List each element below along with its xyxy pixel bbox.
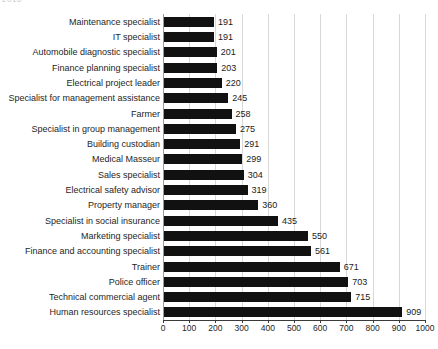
value-label: 220	[226, 77, 241, 88]
value-label: 299	[246, 154, 261, 165]
category-label: Technical commercial agent	[49, 292, 160, 303]
bar	[164, 124, 236, 134]
value-label: 435	[282, 215, 297, 226]
bar-row: IT specialist191	[0, 29, 438, 45]
category-label: Property manager	[88, 200, 160, 211]
bar-wrapper	[164, 200, 258, 210]
value-label: 550	[312, 230, 327, 241]
bar-wrapper	[164, 109, 232, 119]
category-label: Maintenance specialist	[69, 16, 160, 27]
category-label: Specialist for management assistance	[8, 93, 160, 104]
bar-row: Electrical project leader220	[0, 75, 438, 91]
bar-wrapper	[164, 277, 348, 287]
category-label: Human resources specialist	[49, 307, 160, 318]
bar-row: Maintenance specialist191	[0, 14, 438, 30]
bar-row: Finance and accounting specialist561	[0, 244, 438, 260]
value-label: 258	[236, 108, 251, 119]
bar	[164, 200, 258, 210]
bar-wrapper	[164, 185, 248, 195]
value-label: 304	[248, 169, 263, 180]
bar-wrapper	[164, 292, 351, 302]
bar	[164, 216, 278, 226]
category-label: Electrical safety advisor	[65, 185, 160, 196]
value-label: 561	[315, 246, 330, 257]
bar-row: Specialist for management assistance245	[0, 91, 438, 107]
category-label: Medical Masseur	[92, 154, 160, 165]
category-label: Police officer	[109, 276, 160, 287]
value-label: 245	[232, 93, 247, 104]
bar-wrapper	[164, 139, 240, 149]
category-label: IT specialist	[113, 32, 160, 43]
x-tick-label-900: 900	[392, 323, 406, 333]
bar-wrapper	[164, 63, 217, 73]
bar	[164, 93, 228, 103]
value-label: 715	[355, 292, 370, 303]
bar-row: Sales specialist304	[0, 167, 438, 183]
bar-row: Farmer258	[0, 106, 438, 122]
bar-row: Finance planning specialist203	[0, 60, 438, 76]
bar-wrapper	[164, 231, 308, 241]
bar-wrapper	[164, 262, 340, 272]
x-tick-label-200: 200	[208, 323, 222, 333]
x-tick-label-800: 800	[366, 323, 380, 333]
bar-row: Human resources specialist909	[0, 305, 438, 321]
category-label: Marketing specialist	[81, 230, 160, 241]
value-label: 201	[221, 47, 236, 58]
bar	[164, 231, 308, 241]
bar	[164, 78, 222, 88]
clipped-title-fragment: 2016	[2, 0, 22, 2]
bar-row: Automobile diagnostic specialist201	[0, 45, 438, 61]
bar-row: Police officer703	[0, 274, 438, 290]
bar-row: Trainer671	[0, 259, 438, 275]
value-label: 191	[218, 16, 233, 27]
bar-row: Electrical safety advisor319	[0, 182, 438, 198]
x-tick-label-500: 500	[287, 323, 301, 333]
value-label: 275	[240, 123, 255, 134]
bar	[164, 17, 214, 27]
value-label: 703	[352, 276, 367, 287]
bar-row: Specialist in group management275	[0, 121, 438, 137]
bar	[164, 63, 217, 73]
bar-wrapper	[164, 307, 402, 317]
category-label: Farmer	[131, 108, 160, 119]
bar-wrapper	[164, 246, 311, 256]
bar	[164, 47, 217, 57]
bar-chart: 2016 Maintenance specialist191IT special…	[0, 0, 438, 349]
bar	[164, 109, 232, 119]
bar-row: Building custodian291	[0, 136, 438, 152]
bar-wrapper	[164, 17, 214, 27]
bar	[164, 246, 311, 256]
bar-wrapper	[164, 154, 242, 164]
category-label: Finance and accounting specialist	[25, 246, 160, 257]
bar-row: Specialist in social insurance435	[0, 213, 438, 229]
bar	[164, 292, 351, 302]
bar-wrapper	[164, 170, 244, 180]
value-label: 319	[252, 185, 267, 196]
category-label: Electrical project leader	[66, 77, 160, 88]
category-label: Specialist in social insurance	[45, 215, 160, 226]
bar-row: Technical commercial agent715	[0, 289, 438, 305]
bar-wrapper	[164, 216, 278, 226]
x-tick-label-300: 300	[235, 323, 249, 333]
bar-wrapper	[164, 93, 228, 103]
bar	[164, 32, 214, 42]
bar	[164, 307, 402, 317]
x-tick-label-400: 400	[261, 323, 275, 333]
value-label: 909	[406, 307, 421, 318]
x-tick-label-100: 100	[182, 323, 196, 333]
bar-row: Marketing specialist550	[0, 228, 438, 244]
category-label: Specialist in group management	[31, 123, 160, 134]
bar-wrapper	[164, 124, 236, 134]
x-tick-label-1000: 1000	[416, 323, 435, 333]
bar-wrapper	[164, 78, 222, 88]
bar-wrapper	[164, 47, 217, 57]
value-label: 360	[262, 200, 277, 211]
value-label: 203	[221, 62, 236, 73]
x-tick-label-600: 600	[313, 323, 327, 333]
bar	[164, 154, 242, 164]
value-label: 671	[344, 261, 359, 272]
category-label: Automobile diagnostic specialist	[32, 47, 160, 58]
bar	[164, 139, 240, 149]
bar-wrapper	[164, 32, 214, 42]
bar	[164, 277, 348, 287]
